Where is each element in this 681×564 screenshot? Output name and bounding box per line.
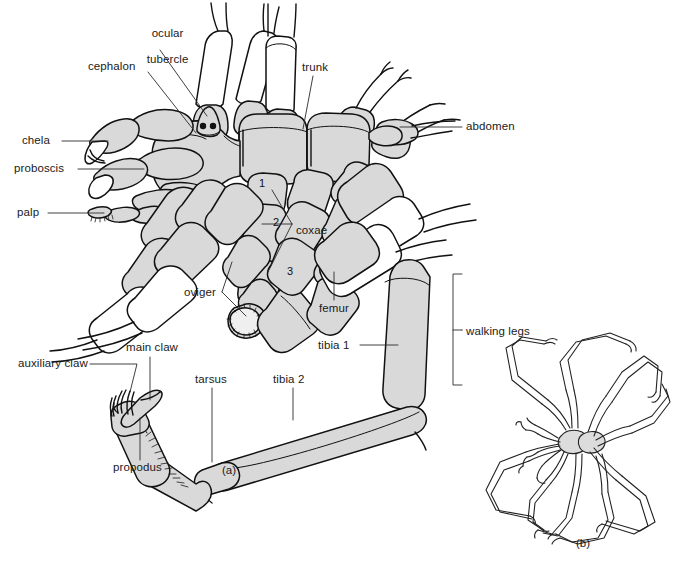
label-femur: femur: [319, 302, 349, 315]
label-auxiliary-claw: auxiliary claw: [18, 357, 88, 370]
label-tarsus: tarsus: [195, 373, 227, 386]
anatomy-illustration: .body { fill:#d9d9d9; stroke:#111111; st…: [0, 0, 681, 564]
label-tibia-2: tibia 2: [273, 373, 304, 386]
coxa-number-3: 3: [287, 265, 293, 277]
walking-legs-bracket: [453, 274, 462, 385]
caption-panel-a: (a): [222, 464, 236, 476]
label-chela: chela: [22, 134, 50, 147]
label-coxae: coxae: [296, 224, 327, 237]
label-palp: palp: [17, 206, 39, 219]
label-propodus: propodus: [113, 461, 162, 474]
claw-group: [111, 390, 163, 436]
label-ocular-tubercle-line1: ocular: [152, 27, 184, 39]
label-main-claw: main claw: [126, 341, 178, 354]
label-cephalon: cephalon: [88, 60, 135, 73]
label-oviger: oviger: [184, 286, 216, 299]
label-ocular-tubercle: ocular tubercle: [126, 14, 196, 79]
tibia-2-segment: [209, 406, 427, 491]
label-proboscis: proboscis: [14, 162, 64, 175]
figure-container: .body { fill:#d9d9d9; stroke:#111111; st…: [0, 0, 681, 564]
tibia-1-segment: [383, 260, 430, 410]
panel-a-illustration: [48, 3, 476, 511]
label-ocular-tubercle-line2: tubercle: [147, 53, 189, 65]
coxa-number-2: 2: [273, 216, 279, 228]
label-trunk: trunk: [302, 61, 328, 74]
panel-b-illustration: [486, 333, 670, 544]
label-walking-legs: walking legs: [466, 325, 530, 338]
label-tibia-1: tibia 1: [318, 339, 349, 352]
caption-panel-b: (b): [576, 537, 590, 549]
label-abdomen: abdomen: [466, 120, 515, 133]
coxa-number-1: 1: [259, 177, 265, 189]
